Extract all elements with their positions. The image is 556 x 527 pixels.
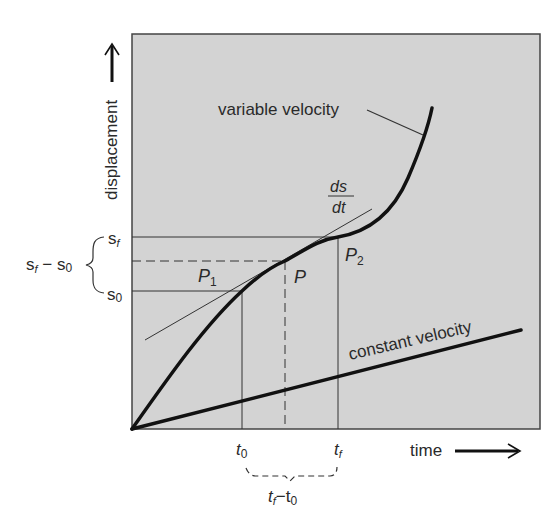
sf-minus-s0-label: sf − s0: [26, 255, 72, 275]
x-brace-dashed-icon: [246, 467, 337, 481]
tf-minus-t0-label: tf−t0: [268, 487, 297, 508]
p-label: P: [294, 267, 306, 287]
tf-label: tf: [334, 440, 343, 460]
x-axis-label: time: [410, 441, 442, 460]
ds-label: ds: [330, 178, 347, 195]
plot-area: [132, 34, 540, 429]
t0-label: t0: [236, 440, 248, 461]
y-axis-label: displacement: [102, 100, 121, 200]
variable-velocity-label: variable velocity: [218, 100, 339, 119]
sf-label: sf: [108, 229, 121, 249]
y-brace-icon: [86, 237, 104, 293]
dt-label: dt: [332, 199, 346, 216]
s0-label: s0: [107, 285, 123, 305]
displacement-time-diagram: displacement time variable velocity cons…: [0, 0, 556, 527]
